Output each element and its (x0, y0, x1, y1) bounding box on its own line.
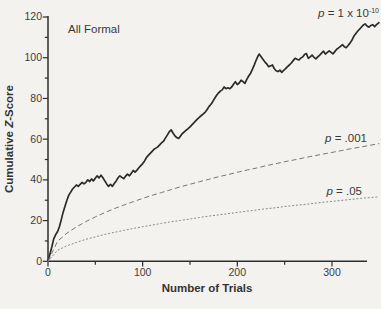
x-axis-title: Number of Trials (162, 282, 253, 294)
y-tick-label-100: 100 (24, 51, 42, 63)
x-tick-label-100: 100 (134, 266, 152, 278)
annotations: All Formal p = 1 x 10-10 p = .001 p = .0… (68, 7, 379, 197)
all-formal-label: All Formal (68, 23, 120, 35)
p-1e-10-label: p = 1 x 10-10 (317, 7, 379, 19)
y-tick-label-60: 60 (30, 133, 42, 145)
chart-canvas: 0 20 40 60 80 100 120 0 100 200 300 Cumu… (0, 0, 381, 309)
y-tick-label-20: 20 (30, 214, 42, 226)
y-tick-labels: 0 20 40 60 80 100 120 (24, 10, 42, 266)
y-tick-label-120: 120 (24, 10, 42, 22)
x-tick-labels: 0 100 200 300 (45, 266, 341, 278)
cumulative-zscore-figure: 0 20 40 60 80 100 120 0 100 200 300 Cumu… (0, 0, 381, 309)
y-axis-title: Cumulative Z-Score (3, 85, 15, 193)
y-tick-label-80: 80 (30, 92, 42, 104)
axes (43, 16, 367, 267)
tick-marks (43, 17, 332, 266)
x-tick-label-0: 0 (45, 266, 51, 278)
y-tick-label-40: 40 (30, 173, 42, 185)
p-001-label: p = .001 (324, 132, 367, 144)
p05-chance-boundary-line (48, 197, 379, 261)
x-tick-label-300: 300 (323, 266, 341, 278)
p-05-label: p = .05 (326, 185, 363, 197)
p001-chance-boundary-line (48, 144, 379, 262)
x-tick-label-200: 200 (229, 266, 247, 278)
y-tick-label-0: 0 (36, 255, 42, 267)
